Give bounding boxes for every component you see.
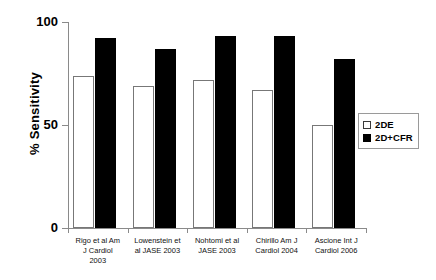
x-label-line: Ascione Int J (304, 236, 368, 246)
x-tick-mark (187, 228, 188, 233)
x-category-label-4: Chirillo Am JCardiol 2004 (245, 236, 309, 256)
y-tick-label: 50 (0, 118, 58, 131)
x-axis-line (68, 228, 366, 229)
x-category-label-3: Nohtomi et alJASE 2003 (185, 236, 249, 256)
hollow-square-icon (363, 121, 371, 129)
x-tick-mark (128, 228, 129, 233)
legend-label-2de: 2DE (375, 119, 394, 130)
x-tick-mark (247, 228, 248, 233)
bar-2de-group-3 (193, 80, 214, 228)
x-label-line: 2003 (66, 256, 130, 266)
bar-2dcfr-group-2 (155, 49, 176, 228)
x-label-line: Chirillo Am J (245, 236, 309, 246)
x-label-line: J Cardiol (66, 246, 130, 256)
plot-area (68, 22, 366, 228)
bar-2de-group-1 (73, 76, 94, 228)
legend-item-2dcfr: 2D+CFR (363, 131, 413, 144)
x-label-line: al JASE 2003 (126, 246, 190, 256)
chart-legend: 2DE 2D+CFR (358, 113, 419, 149)
y-tick-label: 0 (0, 221, 58, 234)
bar-2dcfr-group-5 (334, 59, 355, 228)
bar-2de-group-4 (252, 90, 273, 228)
x-label-line: Nohtomi et al (185, 236, 249, 246)
x-category-label-2: Lowenstein etal JASE 2003 (126, 236, 190, 256)
x-label-line: Cardiol 2006 (304, 246, 368, 256)
bar-2de-group-2 (133, 86, 154, 228)
x-tick-mark (306, 228, 307, 233)
x-category-label-5: Ascione Int JCardiol 2006 (304, 236, 368, 256)
sensitivity-bar-chart: % Sensitivity 050100 Rigo et al AmJ Card… (0, 0, 436, 280)
x-label-line: JASE 2003 (185, 246, 249, 256)
x-tick-mark (366, 228, 367, 233)
y-tick-label: 100 (0, 15, 58, 28)
legend-label-2dcfr: 2D+CFR (375, 132, 413, 143)
bar-2dcfr-group-4 (274, 36, 295, 228)
x-category-label-1: Rigo et al AmJ Cardiol2003 (66, 236, 130, 266)
bar-2de-group-5 (312, 125, 333, 228)
filled-square-icon (363, 134, 371, 142)
bar-2dcfr-group-3 (215, 36, 236, 228)
x-label-line: Cardiol 2004 (245, 246, 309, 256)
x-tick-mark (68, 228, 69, 233)
bar-2dcfr-group-1 (95, 38, 116, 228)
x-label-line: Lowenstein et (126, 236, 190, 246)
y-axis-title: % Sensitivity (27, 34, 42, 194)
legend-item-2de: 2DE (363, 118, 413, 131)
x-label-line: Rigo et al Am (66, 236, 130, 246)
